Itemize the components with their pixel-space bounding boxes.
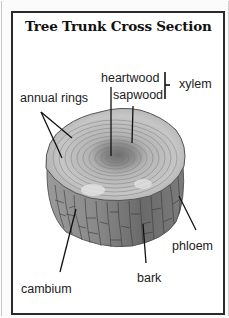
xylem-bracket	[165, 72, 170, 99]
label-xylem: xylem	[179, 78, 212, 91]
label-phloem: phloem	[172, 240, 213, 253]
label-bark: bark	[137, 272, 161, 285]
phloem-line	[179, 196, 196, 230]
label-sapwood: sapwood	[113, 89, 163, 102]
label-annual-rings: annual rings	[20, 92, 88, 105]
tree-stump-illustration	[0, 0, 229, 318]
cross-section-top	[46, 108, 185, 200]
label-cambium: cambium	[21, 283, 72, 296]
label-heartwood: heartwood	[101, 72, 159, 85]
